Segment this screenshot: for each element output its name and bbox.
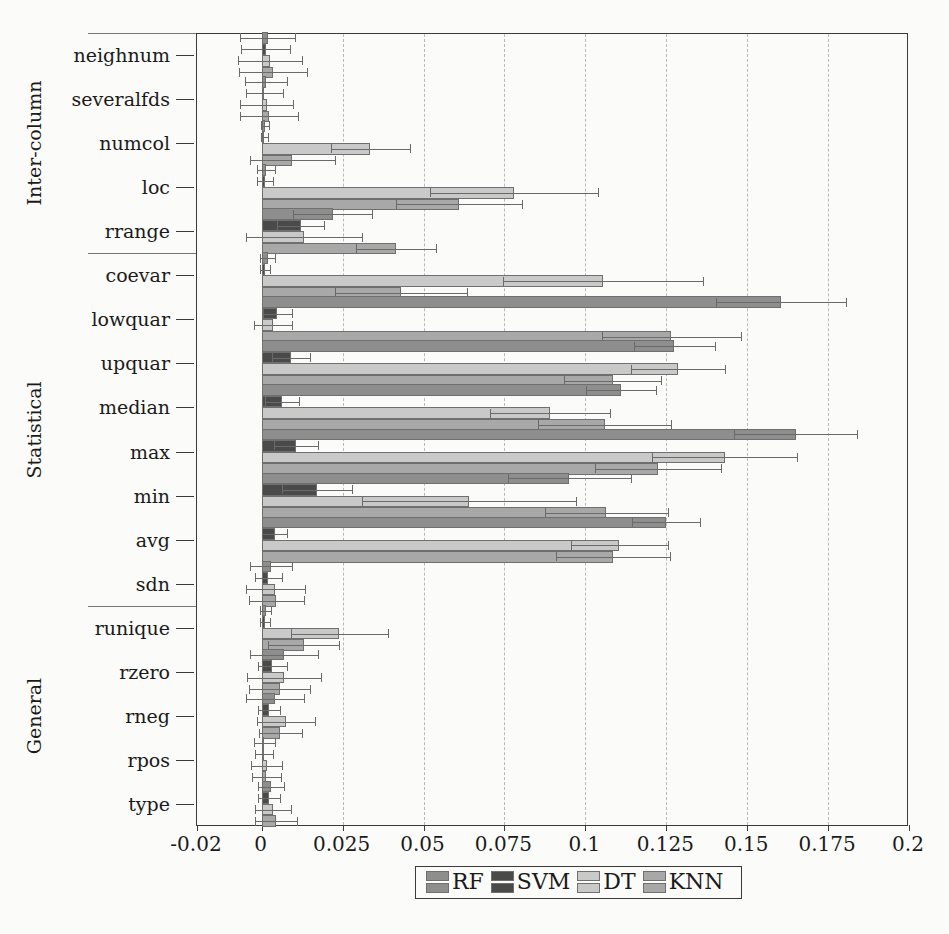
error-bar-cap-low bbox=[240, 112, 241, 121]
error-bar-cap-low bbox=[250, 650, 251, 659]
bar-rf-lowquar bbox=[262, 296, 781, 308]
error-bar-cap-low bbox=[238, 56, 239, 65]
error-bar-cap-low bbox=[255, 573, 256, 582]
legend-label: SVM bbox=[517, 871, 571, 893]
x-axis-tick bbox=[197, 825, 198, 831]
error-bar-cap-low bbox=[257, 177, 258, 186]
y-axis-label-sdn: sdn bbox=[136, 573, 170, 595]
error-bar-line bbox=[257, 722, 315, 723]
error-bar-cap-low bbox=[631, 365, 632, 374]
x-axis-tick bbox=[828, 825, 829, 831]
error-bar-cap-high bbox=[292, 309, 293, 318]
y-axis-tick bbox=[176, 672, 194, 673]
error-bar-cap-high bbox=[797, 453, 798, 462]
error-bar-cap-high bbox=[305, 585, 306, 594]
error-bar-line bbox=[265, 402, 299, 403]
legend-label: KNN bbox=[669, 871, 724, 893]
error-bar-cap-low bbox=[632, 518, 633, 527]
error-bar-line bbox=[240, 116, 298, 117]
error-bar-line bbox=[259, 733, 301, 734]
gridline-vertical bbox=[828, 34, 829, 825]
error-bar-cap-high bbox=[631, 474, 632, 483]
error-bar-line bbox=[538, 425, 671, 426]
error-bar-cap-high bbox=[269, 121, 270, 130]
error-bar-cap-low bbox=[258, 794, 259, 803]
error-bar-line bbox=[240, 38, 295, 39]
error-bar-cap-high bbox=[270, 618, 271, 627]
legend-swatch-block bbox=[577, 871, 600, 881]
error-bar-cap-high bbox=[307, 68, 308, 77]
error-bar-cap-high bbox=[302, 56, 303, 65]
error-bar-cap-low bbox=[356, 244, 357, 253]
legend-swatch-knn bbox=[643, 871, 666, 893]
error-bar-cap-low bbox=[716, 298, 717, 307]
error-bar-line bbox=[239, 72, 307, 73]
error-bar-cap-low bbox=[246, 233, 247, 242]
error-bar-cap-high bbox=[857, 430, 858, 439]
legend-swatch-block bbox=[643, 883, 666, 893]
legend-swatch-block bbox=[426, 871, 449, 881]
y-axis-label-neighnum: neighnum bbox=[74, 44, 170, 66]
error-bar-cap-high bbox=[668, 541, 669, 550]
error-bar-cap-low bbox=[274, 441, 275, 450]
error-bar-line bbox=[556, 557, 669, 558]
y-axis-label-median: median bbox=[99, 396, 170, 418]
group-separator bbox=[88, 253, 196, 254]
error-bar-cap-low bbox=[260, 606, 261, 615]
error-bar-cap-low bbox=[258, 782, 259, 791]
error-bar-cap-low bbox=[260, 618, 261, 627]
error-bar-cap-high bbox=[436, 244, 437, 253]
x-axis-tick-labels: -0.0200.0250.050.0750.10.1250.150.1750.2 bbox=[0, 832, 949, 862]
error-bar-line bbox=[255, 578, 282, 579]
error-bar-cap-low bbox=[247, 673, 248, 682]
error-bar-line bbox=[335, 293, 468, 294]
y-axis-label-rneg: rneg bbox=[125, 705, 170, 727]
error-bar-line bbox=[250, 566, 292, 567]
x-axis-tick bbox=[424, 825, 425, 831]
error-bar-cap-high bbox=[293, 100, 294, 109]
error-bar-cap-high bbox=[287, 662, 288, 671]
error-bar-cap-high bbox=[299, 397, 300, 406]
error-bar-cap-low bbox=[362, 497, 363, 506]
error-bar-cap-low bbox=[734, 430, 735, 439]
x-axis-tick-label: -0.02 bbox=[170, 832, 221, 856]
y-axis-tick bbox=[176, 275, 194, 276]
error-bar-cap-high bbox=[310, 685, 311, 694]
error-bar-line bbox=[268, 645, 339, 646]
error-bar-cap-high bbox=[388, 629, 389, 638]
y-axis-label-rrange: rrange bbox=[105, 220, 170, 242]
error-bar-cap-high bbox=[576, 497, 577, 506]
error-bar-cap-high bbox=[321, 673, 322, 682]
error-bar-cap-high bbox=[335, 156, 336, 165]
error-bar-line bbox=[652, 457, 798, 458]
error-bar-line bbox=[716, 302, 845, 303]
error-bar-cap-high bbox=[846, 298, 847, 307]
error-bar-cap-low bbox=[240, 33, 241, 42]
error-bar-line bbox=[262, 534, 287, 535]
y-axis-label-lowquar: lowquar bbox=[91, 308, 170, 330]
error-bar-cap-low bbox=[430, 188, 431, 197]
error-bar-line bbox=[564, 381, 661, 382]
error-bar-line bbox=[258, 710, 281, 711]
error-bar-line bbox=[277, 226, 324, 227]
y-axis-label-severalfds: severalfds bbox=[72, 88, 170, 110]
error-bar-cap-high bbox=[280, 706, 281, 715]
y-axis-tick bbox=[176, 540, 194, 541]
error-bar-cap-low bbox=[490, 409, 491, 418]
error-bar-line bbox=[246, 93, 284, 94]
error-bar-cap-high bbox=[284, 782, 285, 791]
x-axis-tick-label: 0.175 bbox=[798, 832, 855, 856]
error-bar-line bbox=[250, 160, 334, 161]
x-axis-tick-label: 0.2 bbox=[892, 832, 924, 856]
error-bar-cap-high bbox=[282, 573, 283, 582]
x-axis-tick bbox=[666, 825, 667, 831]
y-axis-tick bbox=[176, 99, 194, 100]
error-bar-cap-low bbox=[250, 562, 251, 571]
error-bar-cap-high bbox=[290, 45, 291, 54]
group-label-inter-column: Inter-column bbox=[23, 81, 45, 206]
error-bar-line bbox=[634, 346, 715, 347]
error-bar-line bbox=[260, 258, 274, 259]
error-bar-cap-high bbox=[372, 210, 373, 219]
error-bar-line bbox=[571, 545, 668, 546]
error-bar-cap-low bbox=[293, 210, 294, 219]
